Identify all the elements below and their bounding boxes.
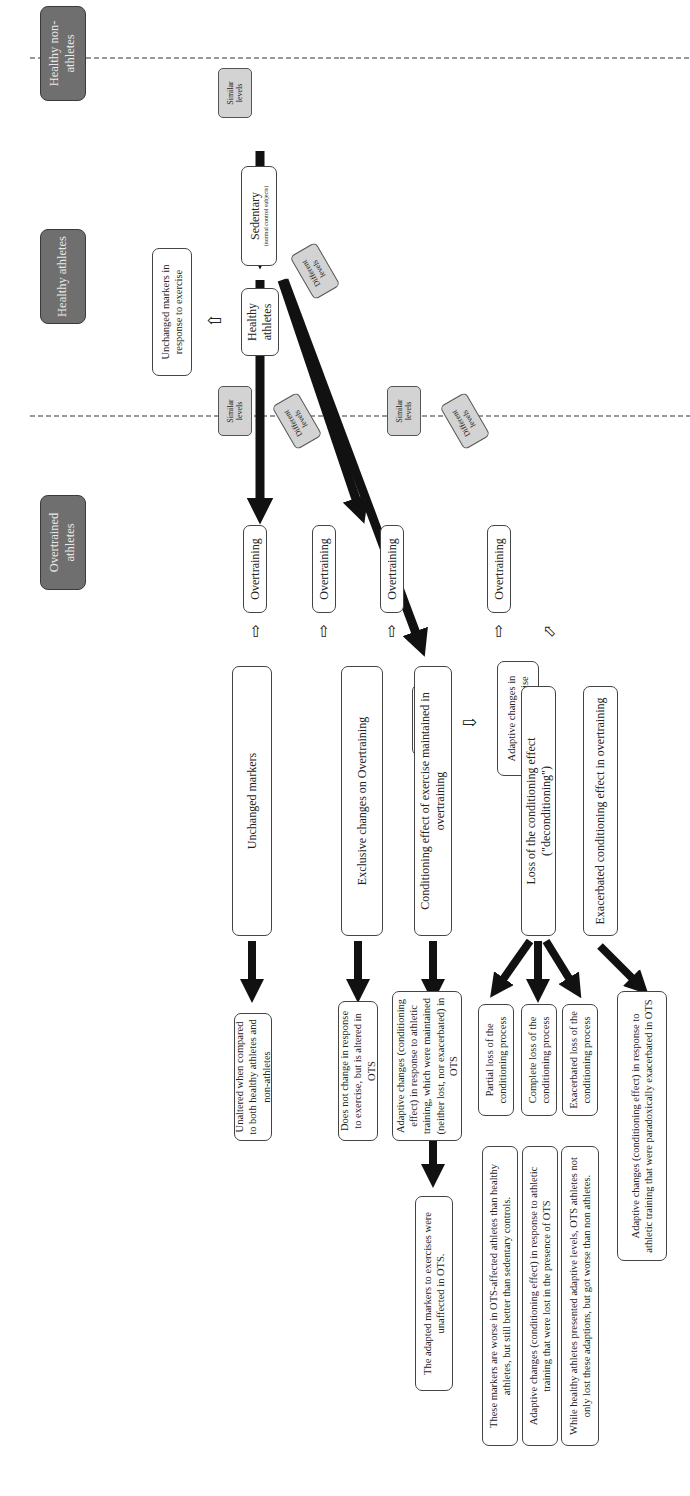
result-paradoxically-exacerbated: Adaptive changes (conditioning effect) i… (617, 991, 667, 1261)
overtraining-diagram: Healthy non-athletes Healthy athletes Ov… (0, 0, 690, 1496)
deconditioning-exacerbated: Exacerbated loss of the conditioning pro… (562, 1004, 598, 1116)
result-exclusive: Does not change in response to exercise,… (338, 1001, 378, 1141)
result-partial: These markers are worse in OTS-affected … (482, 1146, 518, 1446)
result-exacerbated-loss: While healthy athletes presented adaptiv… (561, 1146, 599, 1446)
deconditioning-partial: Partial loss of the conditioning process (478, 1004, 514, 1116)
result-complete: Adaptive changes (conditioning effect) i… (522, 1146, 558, 1446)
result-maintained: Adaptive changes (conditioning effect) i… (392, 991, 462, 1141)
result-adapted-unaffected: The adapted markers to exercises were un… (415, 1196, 453, 1391)
deconditioning-complete: Complete loss of the conditioning proces… (521, 1004, 557, 1116)
result-unaltered: Unaltered when compared to both healthy … (234, 1013, 272, 1141)
